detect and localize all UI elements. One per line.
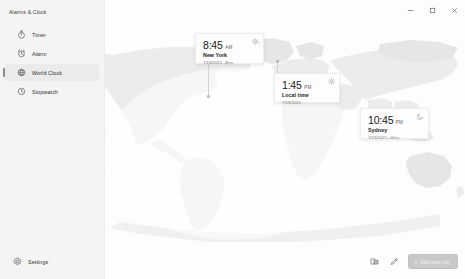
navigation-pane: Alarms & Clock Timer [0, 0, 105, 279]
card-ampm: PM [304, 85, 311, 90]
card-date-offset: 7/19/2021 +6hrs [368, 135, 428, 140]
card-date-offset: 7/19/2021 -4hrs [203, 60, 263, 65]
map-pin-stem-local-time [277, 62, 278, 73]
window-controls [399, 0, 465, 20]
nav-list: Timer Alarm [0, 26, 104, 102]
plus-icon: + [414, 259, 418, 265]
map-pin-local-time[interactable] [276, 60, 279, 63]
stopwatch-icon [17, 87, 26, 96]
sidebar-item-timer[interactable]: Timer [4, 26, 99, 43]
card-time: 10:45 [368, 115, 393, 126]
card-ampm: PM [396, 120, 403, 125]
maximize-button[interactable] [421, 1, 443, 20]
minimize-button[interactable] [399, 1, 421, 20]
sidebar-item-label: Timer [32, 32, 46, 38]
world-clock-icon [17, 68, 26, 77]
card-city-name: New York [203, 52, 263, 58]
city-card-new-york[interactable]: 8:45 AM New York 7/19/2021 -4hrs [195, 33, 264, 64]
card-ampm: AM [225, 45, 232, 50]
timer-icon [17, 30, 26, 39]
add-new-city-label: Add new city [420, 259, 450, 265]
map-wrapper [104, 0, 465, 279]
card-date-offset: 7/19/2021 [282, 100, 339, 105]
sidebar-item-label: Stopwatch [32, 89, 58, 95]
card-city-name: Local time [282, 92, 339, 98]
sidebar-item-stopwatch[interactable]: Stopwatch [4, 83, 99, 100]
sun-icon [328, 78, 335, 85]
moon-icon [417, 113, 424, 120]
city-card-local-time[interactable]: 1:45 PM Local time 7/19/2021 [274, 73, 340, 103]
sun-icon [252, 38, 259, 45]
world-clock-map-area[interactable]: 8:45 AM New York 7/19/2021 -4hrs [104, 0, 465, 279]
sidebar-item-settings[interactable]: Settings [4, 253, 99, 270]
sidebar-item-label: World Clock [32, 70, 62, 76]
sidebar-item-label: Alarm [32, 51, 47, 57]
sidebar-item-label: Settings [28, 259, 48, 265]
city-card-sydney[interactable]: 10:45 PM Sydney 7/19/2021 +6hrs [360, 108, 429, 139]
add-new-city-button[interactable]: + Add new city [408, 254, 458, 269]
alarm-icon [17, 49, 26, 58]
compare-icon[interactable] [368, 255, 382, 269]
card-time: 8:45 [203, 40, 223, 51]
close-button[interactable] [443, 1, 465, 20]
map-pin-stem-new-york [208, 62, 209, 96]
edit-icon[interactable] [388, 255, 402, 269]
map-pin-new-york[interactable] [207, 95, 210, 98]
alarms-and-clock-window: 8:45 AM New York 7/19/2021 -4hrs [0, 0, 465, 279]
sidebar-item-alarm[interactable]: Alarm [4, 45, 99, 62]
card-time: 1:45 [282, 80, 302, 91]
command-bar: + Add new city [368, 253, 458, 270]
title-bar[interactable] [0, 0, 465, 20]
sidebar-item-world-clock[interactable]: World Clock [4, 64, 99, 81]
gear-icon [13, 257, 22, 266]
card-city-name: Sydney [368, 127, 428, 133]
